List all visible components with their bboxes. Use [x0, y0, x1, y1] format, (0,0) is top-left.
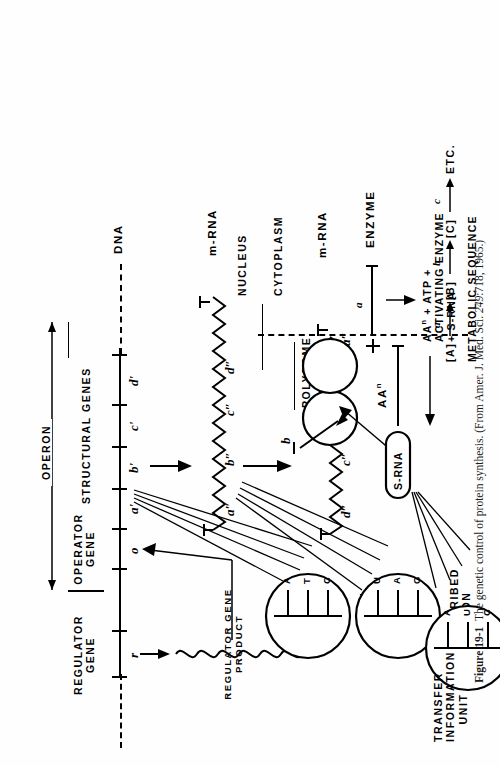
rotated-figure-wrapper: DNA r o a' b' c' d' REGULATORGENE OPERAT…	[0, 0, 500, 766]
figure-page: DNA r o a' b' c' d' REGULATORGENE OPERAT…	[0, 0, 500, 766]
figure-caption-text: Figure 19-1 The genetic control of prote…	[473, 83, 485, 683]
caption-volume: 249	[473, 296, 485, 313]
transfer-unit-circle-svg	[0, 0, 500, 766]
figure-plate: DNA r o a' b' c' d' REGULATORGENE OPERAT…	[0, 0, 500, 766]
caption-body	[473, 621, 485, 627]
transfer-unit-base-1: A	[441, 608, 452, 616]
figure-caption: Figure 19-1 The genetic control of prote…	[464, 0, 494, 766]
figure-number: Figure 19-1	[473, 627, 485, 683]
